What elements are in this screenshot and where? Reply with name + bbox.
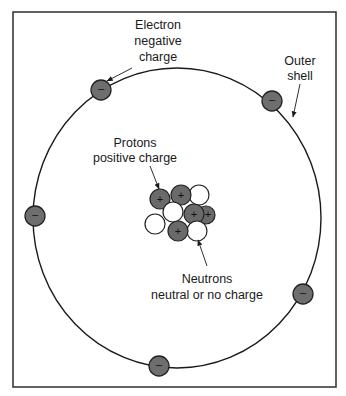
protons-label-line1: Protons: [113, 136, 156, 150]
neutron: [187, 221, 207, 241]
plus-sign-icon: +: [205, 208, 211, 220]
plus-sign-icon: +: [178, 189, 184, 201]
outer-shell-label-line1: Outer: [284, 54, 315, 68]
minus-sign-icon: −: [155, 359, 162, 373]
outer-shell-label-line2: shell: [287, 69, 313, 83]
minus-sign-icon: −: [299, 287, 306, 301]
electron-label: Electron negative charge: [134, 18, 181, 64]
plus-sign-icon: +: [175, 225, 181, 237]
electron-top-right: −: [262, 91, 282, 111]
neutron: [163, 202, 183, 222]
plus-sign-icon: +: [191, 208, 197, 220]
atom-diagram: − − − − − + + + + + Electron: [0, 0, 346, 396]
electron-label-line2: negative: [134, 34, 181, 48]
minus-sign-icon: −: [31, 209, 38, 223]
neutron: [145, 214, 165, 234]
electron-left: −: [25, 206, 45, 226]
neutron: [189, 185, 209, 205]
electron-label-line3: charge: [139, 50, 177, 64]
plus-sign-icon: +: [157, 193, 163, 205]
minus-sign-icon: −: [97, 83, 104, 97]
protons-label-line2: positive charge: [93, 151, 177, 165]
electron-bottom: −: [149, 356, 169, 376]
neutrons-label-line1: Neutrons: [182, 272, 233, 286]
outer-shell-label: Outer shell: [284, 54, 315, 83]
electron-label-line1: Electron: [135, 18, 181, 32]
electron-top-left: −: [91, 80, 111, 100]
minus-sign-icon: −: [268, 94, 275, 108]
electron-right-bottom: −: [293, 284, 313, 304]
neutrons-label-line2: neutral or no charge: [151, 288, 263, 302]
